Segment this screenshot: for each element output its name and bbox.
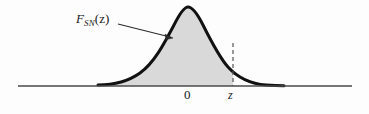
cdf-label-argument: (z) [95, 11, 109, 26]
cdf-label-prefix: F [76, 11, 84, 26]
cdf-label: FSN(z) [76, 11, 109, 28]
cdf-label-subscript: SN [84, 18, 95, 28]
cumulative-probability-region [98, 8, 233, 86]
axis-tick-label-zero: 0 [184, 87, 191, 103]
axis-tick-label-z: z [228, 88, 233, 103]
normal-distribution-figure: FSN(z) 0 z [0, 0, 369, 114]
cdf-label-arrow [118, 24, 173, 40]
